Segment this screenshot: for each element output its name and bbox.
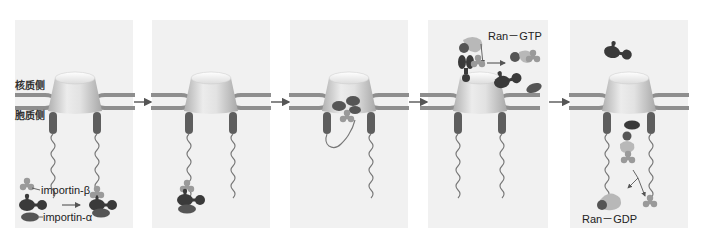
importin-beta-label: importin-β [41,185,90,196]
nucleus-side-label: 核质侧 [15,80,45,91]
panel-4-pore [420,72,540,198]
cargo-icon [603,40,634,62]
importin-beta-icon [643,195,657,207]
ran-gdp-icon [597,193,621,210]
cargo-icon [19,194,47,211]
ran-gtp-label: Ran－GTP [488,31,542,42]
importin-alpha-icon [21,213,39,222]
panel-3-pore [289,72,409,198]
ran-gdp-label: Ran－GDP [582,214,637,225]
ran-beta-complex [620,132,635,164]
cytoplasm-side-label: 胞质侧 [15,110,45,121]
panel-2-pore [151,72,271,198]
ran-gtp-icon [459,37,482,53]
importin-alpha-label: importin-α [43,212,92,223]
diagram-canvas [0,0,702,240]
importin-complex-icon [89,186,117,218]
importin-complex-icon [177,180,205,214]
ran-gtp-beta-complex [510,50,540,63]
